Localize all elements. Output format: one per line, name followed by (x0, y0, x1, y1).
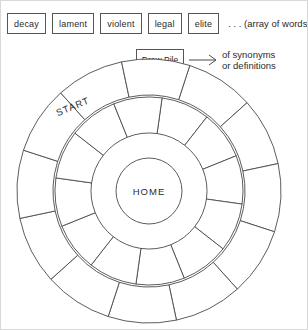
board-space[interactable] (17, 150, 58, 218)
home-label: HOME (133, 186, 166, 197)
diagram-page: decay lament violent legal elite . . . (… (0, 0, 308, 330)
board-space[interactable] (108, 282, 176, 323)
spiral-board: HOME START (1, 1, 308, 330)
board-space[interactable] (240, 164, 281, 232)
board-space[interactable] (122, 59, 190, 100)
